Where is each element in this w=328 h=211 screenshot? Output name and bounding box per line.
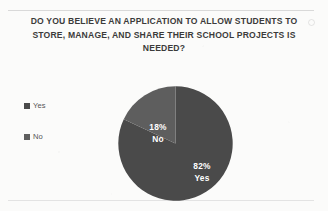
pie-chart: 82% Yes 18% No bbox=[118, 86, 233, 201]
legend-label-no: No bbox=[33, 133, 43, 141]
legend-item-yes[interactable]: Yes bbox=[24, 100, 84, 112]
chart-canvas: DO YOU BELIEVE AN APPLICATION TO ALLOW S… bbox=[0, 0, 328, 211]
legend-item-no[interactable]: No bbox=[24, 131, 84, 143]
chart-title-line-1: DO YOU BELIEVE AN APPLICATION TO ALLOW S… bbox=[26, 15, 302, 29]
legend-label-yes: Yes bbox=[33, 102, 46, 110]
slice-label-yes-percent: 82% bbox=[193, 161, 211, 171]
chart-title-line-2: STORE, MANAGE, AND SHARE THEIR SCHOOL PR… bbox=[26, 29, 302, 43]
slice-label-yes-name: Yes bbox=[194, 173, 209, 183]
chart-title: DO YOU BELIEVE AN APPLICATION TO ALLOW S… bbox=[26, 15, 302, 56]
legend-swatch-yes bbox=[24, 103, 30, 109]
scan-artifact bbox=[308, 19, 315, 26]
legend-swatch-no bbox=[24, 134, 30, 140]
pie-svg: 82% Yes 18% No bbox=[118, 86, 233, 201]
chart-legend: Yes No bbox=[24, 100, 84, 162]
slice-label-no-percent: 18% bbox=[149, 122, 167, 132]
top-divider bbox=[8, 10, 314, 11]
chart-title-line-3: NEEDED? bbox=[26, 42, 302, 56]
slice-label-no-name: No bbox=[152, 134, 164, 144]
